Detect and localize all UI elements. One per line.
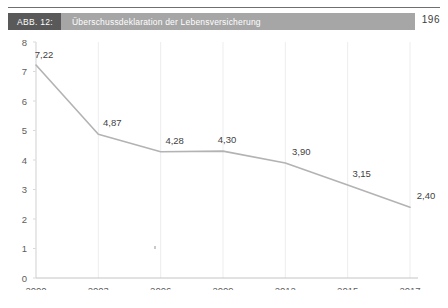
data-point-label: 3,15 — [352, 168, 371, 179]
data-point-label: 7,22 — [35, 49, 54, 60]
y-tick-label: 7 — [22, 66, 27, 77]
chart-svg: 012345678 2000200320062009201220152017 7… — [0, 34, 448, 290]
x-tick-label: 2003 — [88, 285, 109, 290]
y-tick-label: 1 — [22, 243, 27, 254]
line-chart: 012345678 2000200320062009201220152017 7… — [0, 34, 448, 290]
data-point-label: 4,28 — [165, 135, 184, 146]
y-tick-label: 6 — [22, 96, 27, 107]
x-axis-ticks: 2000200320062009201220152017 — [25, 285, 420, 290]
x-gridlines — [36, 42, 410, 278]
figure-page: ABB. 12: Überschussdeklaration der Leben… — [0, 0, 448, 308]
page-number-label: 196 — [422, 14, 440, 25]
y-tick-label: 3 — [22, 184, 27, 195]
scan-artifact-speck — [154, 246, 156, 249]
axis-lines — [36, 42, 418, 278]
x-tick-label: 2015 — [337, 285, 358, 290]
y-tick-label: 0 — [22, 273, 27, 284]
x-tick-label: 2009 — [212, 285, 233, 290]
y-tick-label: 5 — [22, 125, 27, 136]
x-tick-label: 2006 — [150, 285, 171, 290]
top-divider-rule — [8, 7, 440, 8]
figure-title-label: Überschussdeklaration der Lebensversiche… — [61, 13, 415, 30]
data-labels: 7,224,874,284,303,903,152,40 — [35, 49, 436, 201]
y-tick-label: 8 — [22, 37, 27, 48]
x-tick-label: 2017 — [399, 285, 420, 290]
data-point-label: 3,90 — [292, 146, 311, 157]
x-tick-label: 2000 — [25, 285, 46, 290]
data-point-label: 2,40 — [417, 190, 436, 201]
figure-number-label: ABB. 12: — [8, 13, 61, 30]
data-point-label: 4,30 — [218, 134, 237, 145]
y-axis-ticks: 012345678 — [22, 37, 36, 284]
y-tick-label: 4 — [22, 155, 27, 166]
y-tick-label: 2 — [22, 214, 27, 225]
figure-caption-bar: ABB. 12: Überschussdeklaration der Leben… — [8, 13, 415, 30]
data-point-label: 4,87 — [103, 117, 122, 128]
x-tick-label: 2012 — [275, 285, 296, 290]
